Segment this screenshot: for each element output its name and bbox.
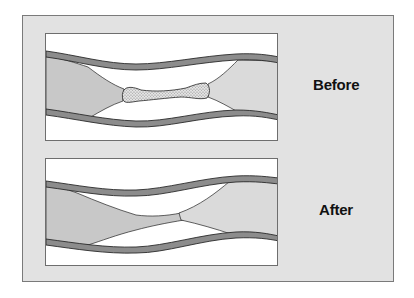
- plaque-right: [208, 60, 278, 116]
- artery-before-illustration: [46, 34, 278, 141]
- label-after: After: [319, 201, 353, 218]
- before-panel: [45, 33, 278, 141]
- blood-clot: [122, 83, 209, 102]
- label-before: Before: [313, 76, 359, 93]
- after-panel: [45, 158, 278, 266]
- plaque-right: [179, 181, 278, 238]
- artery-after-illustration: [46, 159, 278, 266]
